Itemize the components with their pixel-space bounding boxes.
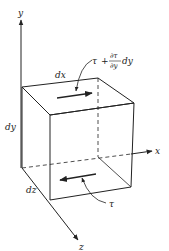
stress-element-diagram: y x z dx dy dz τ + ∂τ ∂y dy τ xyxy=(0,0,169,251)
top-stress-numerator: ∂τ xyxy=(110,52,118,60)
bottom-leader-line xyxy=(82,178,106,203)
x-axis xyxy=(131,151,152,154)
cube-hidden-diagonal xyxy=(98,157,131,187)
cube-top-face xyxy=(22,78,134,115)
x-axis-label: x xyxy=(155,146,160,156)
cube-front-face xyxy=(50,103,134,200)
z-axis-label: z xyxy=(78,242,84,251)
top-shear-arrow xyxy=(57,93,92,98)
dz-label: dz xyxy=(26,185,37,195)
y-axis-label: y xyxy=(17,8,24,18)
dx-label: dx xyxy=(55,70,66,80)
top-stress-plus: + xyxy=(101,56,109,66)
top-stress-tau: τ xyxy=(92,56,98,66)
bottom-shear-arrow xyxy=(60,174,96,180)
bottom-stress-tau: τ xyxy=(109,199,115,209)
top-leader-line xyxy=(76,60,92,91)
x-axis-hidden xyxy=(22,154,131,168)
top-stress-denominator: ∂y xyxy=(110,62,119,70)
top-stress-dy: dy xyxy=(122,56,134,66)
dy-label: dy xyxy=(5,122,17,132)
